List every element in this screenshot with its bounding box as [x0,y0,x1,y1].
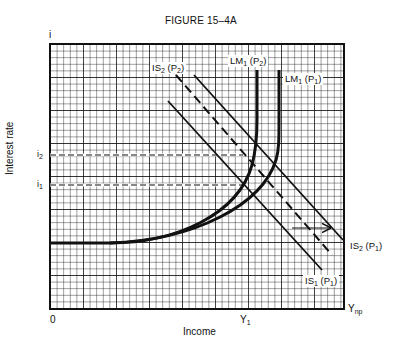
is2-p2-label: IS2 (P2) [150,62,186,74]
lm1-p1-label: LM1 (P1) [283,73,323,85]
is2-p1-label: IS2 (P1) [348,240,384,252]
lm1-p2-label: LM1 (P2) [228,55,268,67]
is-lm-diagram [0,0,402,359]
is1-p1-label: IS1 (P1) [303,275,339,287]
